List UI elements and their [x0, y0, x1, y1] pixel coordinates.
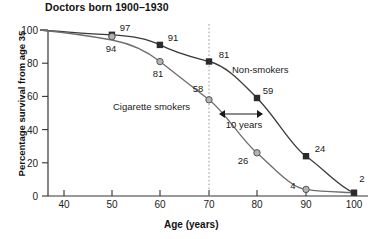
value-label-non-smokers-100: 2	[359, 173, 364, 184]
marker-smokers-60	[157, 58, 163, 64]
marker-non-smokers-100	[351, 190, 357, 196]
x-tick-label-40: 40	[58, 199, 69, 210]
series-line-non-smokers	[40, 30, 354, 193]
marker-smokers-90	[303, 186, 309, 192]
value-label-non-smokers-50: 97	[120, 22, 131, 33]
value-label-smokers-90: 4	[290, 180, 295, 191]
series-label-cigarette-smokers: Cigarette smokers	[113, 101, 190, 112]
x-tick-label-70: 70	[203, 199, 214, 210]
survival-chart: Doctors born 1900–1930 Percentage surviv…	[0, 0, 372, 239]
marker-non-smokers-90	[303, 153, 309, 159]
marker-non-smokers-70	[206, 58, 212, 64]
x-tick-label-60: 60	[154, 199, 165, 210]
marker-smokers-80	[254, 150, 260, 156]
value-label-smokers-50: 94	[106, 43, 117, 54]
value-label-non-smokers-80: 59	[263, 85, 274, 96]
chart-canvas	[0, 0, 372, 239]
y-tick-label-20: 20	[16, 158, 38, 169]
gap-annotation-label: 10 years	[226, 119, 262, 130]
series-line-cigarette-smokers	[40, 30, 354, 193]
marker-smokers-50	[109, 33, 115, 39]
y-tick-label-0: 0	[16, 191, 38, 202]
y-tick-label-100: 100	[16, 25, 38, 36]
y-axis-ticks	[42, 30, 48, 196]
x-tick-label-100: 100	[346, 199, 363, 210]
marker-smokers-70	[206, 97, 212, 103]
value-label-non-smokers-90: 24	[315, 143, 326, 154]
series-label-non-smokers: Non-smokers	[232, 64, 289, 75]
x-tick-label-90: 90	[300, 199, 311, 210]
x-tick-label-50: 50	[106, 199, 117, 210]
y-tick-label-80: 80	[16, 58, 38, 69]
marker-non-smokers-80	[254, 95, 260, 101]
y-tick-label-60: 60	[16, 91, 38, 102]
value-label-smokers-70: 58	[193, 83, 204, 94]
value-label-smokers-80: 26	[238, 155, 249, 166]
value-label-non-smokers-70: 81	[219, 49, 230, 60]
x-tick-label-80: 80	[251, 199, 262, 210]
value-label-smokers-60: 81	[153, 68, 164, 79]
marker-non-smokers-60	[157, 42, 163, 48]
y-tick-label-40: 40	[16, 125, 38, 136]
value-label-non-smokers-60: 91	[168, 32, 179, 43]
